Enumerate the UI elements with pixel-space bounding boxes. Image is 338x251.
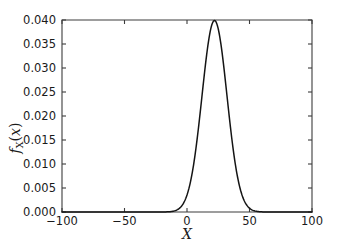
y-axis-label-composite: fX(x) (7, 123, 25, 155)
plot-canvas: −100−50050100 0.0000.0050.0100.0150.0200… (0, 0, 338, 251)
y-tick-label: 0.040 (23, 13, 56, 27)
y-tick-label: 0.000 (23, 205, 56, 219)
y-tick-label: 0.015 (23, 133, 56, 147)
y-axis-label: fX(x) (7, 123, 25, 155)
y-tick-label: 0.035 (23, 37, 56, 51)
y-label-arg: x (7, 128, 23, 136)
y-tick-label: 0.005 (23, 181, 56, 195)
x-tick-label: −50 (112, 214, 136, 228)
x-axis-label: X (181, 226, 193, 242)
y-tick-label: 0.030 (23, 61, 56, 75)
x-tick-label: 100 (301, 214, 323, 228)
chart-figure: −100−50050100 0.0000.0050.0100.0150.0200… (0, 0, 338, 251)
y-tick-label: 0.025 (23, 85, 56, 99)
y-label-close-paren: ) (7, 123, 23, 128)
y-tick-label: 0.020 (23, 109, 56, 123)
y-tick-label: 0.010 (23, 157, 56, 171)
x-tick-label: 50 (242, 214, 257, 228)
